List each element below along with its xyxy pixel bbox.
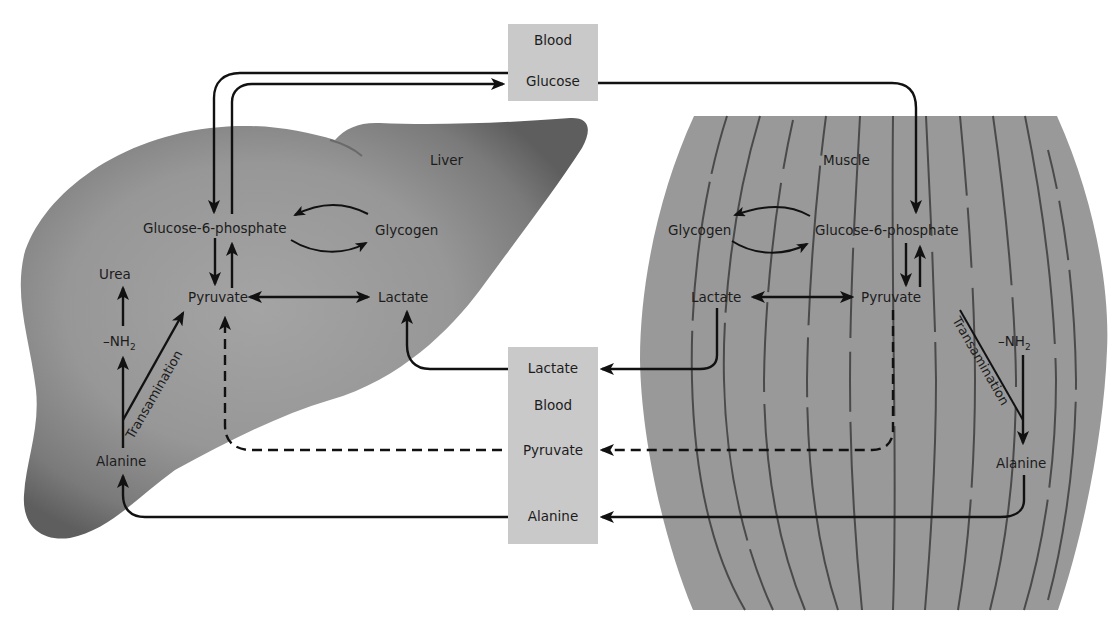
muscle-label: Muscle [823, 152, 870, 168]
muscle-glucose6p: Glucose-6-phosphate [815, 222, 959, 238]
liver-glucose6p: Glucose-6-phosphate [143, 220, 287, 236]
blood-pyruvate-label: Pyruvate [523, 442, 583, 458]
liver-urea: Urea [99, 266, 131, 282]
liver-lactate: Lactate [378, 289, 428, 305]
muscle-glycogen: Glycogen [668, 222, 731, 238]
blood-bottom-header: Blood [534, 397, 572, 413]
blood-lactate-label: Lactate [528, 360, 578, 376]
liver-label: Liver [430, 152, 464, 168]
blood-alanine-to-liver-arrow [123, 476, 508, 517]
blood-glucose-box: Blood Glucose [508, 24, 598, 101]
blood-alanine-label: Alanine [528, 508, 578, 524]
liver-shape [21, 118, 588, 539]
liver-pyruvate: Pyruvate [188, 289, 248, 305]
muscle-alanine: Alanine [996, 455, 1046, 471]
blood-top-header: Blood [534, 32, 572, 48]
muscle-organ: Muscle Glycogen Glucose-6-phosphate Lact… [602, 116, 1107, 610]
cori-cycle-diagram: Liver Glucose-6-phosphate Glycogen Urea … [0, 0, 1120, 625]
liver-glycogen: Glycogen [375, 222, 438, 238]
blood-glucose-label: Glucose [526, 73, 580, 89]
liver-organ: Liver Glucose-6-phosphate Glycogen Urea … [21, 118, 588, 539]
liver-alanine: Alanine [96, 453, 146, 469]
blood-metabolites-box: Lactate Blood Pyruvate Alanine [508, 347, 598, 544]
muscle-shape [640, 116, 1107, 610]
muscle-lactate: Lactate [691, 289, 741, 305]
muscle-pyruvate: Pyruvate [861, 289, 921, 305]
